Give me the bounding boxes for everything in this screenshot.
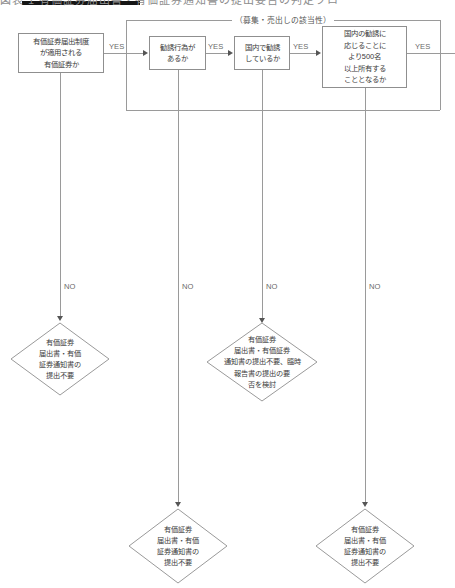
bracket-label: （募集・売出しの該当性） [232,14,334,25]
no-edge-3-label: NO [266,282,277,291]
yes-edge-1-label: YES [109,42,124,51]
bottom-return-horizontal [126,110,440,111]
yes-edge-3-arrowhead [316,50,321,56]
no-edge-2-line [178,70,179,504]
yes-edge-1-arrowhead [143,50,148,56]
outcome-diamond-4[interactable]: 有価証券 届出書・有価 証券通知書の 提出不要 [315,508,415,584]
yes-edge-4-label: YES [415,42,430,51]
decision-box-1-text: 有価証券届出制度 が適用される 有価証券か [33,36,89,70]
outcome-diamond-1[interactable]: 有価証券 届出書・有価 証券通知書の 提出不要 [10,322,110,396]
yes-edge-2-arrowhead [228,50,233,56]
no-edge-2-label: NO [182,282,193,291]
yes-edge-3-line [290,53,318,54]
no-edge-4-line [365,88,366,504]
decision-box-3-text: 国内で勧誘 しているか [245,42,280,65]
no-edge-4-arrowhead [362,502,368,507]
decision-box-4-text: 国内の勧誘に 応じることに より500名 以上所有する こととなるか [344,28,386,85]
outcome-diamond-4-text: 有価証券 届出書・有価 証券通知書の 提出不要 [315,508,415,584]
decision-box-4[interactable]: 国内の勧誘に 応じることに より500名 以上所有する こととなるか [322,26,407,88]
no-edge-1-label: NO [64,282,75,291]
flowchart-canvas: 図表 1 有価証券届出書・有価証券通知書の提出要否の判定フロー （募集・売出しの… [0,0,455,588]
yes-edge-1-line [104,53,145,54]
no-edge-1-arrowhead [57,316,63,321]
decision-box-1[interactable]: 有価証券届出制度 が適用される 有価証券か [18,33,104,73]
decision-box-2[interactable]: 勧誘行為が あるか [149,36,206,70]
outcome-diamond-2[interactable]: 有価証券 届出書・有価 証券通知書の 提出不要 [128,508,228,584]
header-title-fragment: 図表 1 有価証券届出書・有価証券通知書の提出要否の判定フロー [0,0,455,7]
outcome-diamond-2-text: 有価証券 届出書・有価 証券通知書の 提出不要 [128,508,228,584]
outcome-diamond-3[interactable]: 有価証券 届出書・有価証券 通知書の提出不要、臨時 報告書の提出の要 否を検討 [206,322,318,402]
yes-edge-4-line [407,53,455,54]
decision-box-3[interactable]: 国内で勧誘 しているか [234,36,290,70]
no-edge-1-line [60,73,61,318]
decision-box-2-text: 勧誘行為が あるか [160,42,195,65]
no-edge-2-arrowhead [175,502,181,507]
outcome-diamond-3-text: 有価証券 届出書・有価証券 通知書の提出不要、臨時 報告書の提出の要 否を検討 [206,322,318,402]
yes-edge-3-label: YES [293,42,308,51]
yes-edge-2-line [206,53,230,54]
no-edge-3-line [262,70,263,320]
top-bracket-left-drop [126,20,127,110]
top-bracket-right-drop [440,20,441,110]
no-edge-4-label: NO [369,282,380,291]
outcome-diamond-1-text: 有価証券 届出書・有価 証券通知書の 提出不要 [10,322,110,396]
yes-edge-2-label: YES [208,42,223,51]
document-header-strip: 図表 1 有価証券届出書・有価証券通知書の提出要否の判定フロー [0,0,455,11]
